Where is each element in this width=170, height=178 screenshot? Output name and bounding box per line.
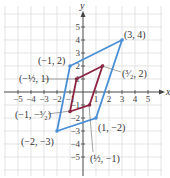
y-axis-label: y — [79, 0, 85, 11]
y-tick-label: −5 — [70, 152, 80, 162]
x-tick-label: −5 — [13, 94, 23, 104]
label-1-neg2: (1, −2) — [98, 122, 125, 134]
vertex-dot — [55, 129, 59, 133]
vertex-dot — [68, 64, 72, 68]
y-tick-label: 3 — [76, 48, 81, 58]
label-neg1-2: (−1, 2) — [38, 55, 65, 67]
x-tick-label: 1 — [94, 94, 99, 104]
x-tick-label: 4 — [133, 94, 138, 104]
plot-canvas: x y −5−4−3−2−11234554321−1−2−3−4−5 (3, 4… — [0, 0, 170, 178]
x-axis-label: x — [165, 86, 170, 97]
y-tick-label: −3 — [70, 126, 80, 136]
outer-parallelogram — [57, 40, 122, 131]
label-3half-2: (³⁄₂, 2) — [122, 68, 147, 80]
x-tick-label: 5 — [146, 94, 151, 104]
label-neg1-neg3half: (−1, −³⁄₂) — [15, 109, 51, 121]
label-3-4: (3, 4) — [124, 29, 146, 41]
label-neg2-neg3: (−2, −3) — [21, 136, 54, 148]
y-tick-label: −2 — [70, 113, 80, 123]
vertex-dot — [88, 103, 92, 107]
vertex-dot — [94, 116, 98, 120]
axes: x y — [4, 0, 170, 176]
y-tick-label: −4 — [70, 139, 80, 149]
coordinate-diagram: x y −5−4−3−2−11234554321−1−2−3−4−5 (3, 4… — [0, 0, 170, 178]
x-tick-label: 3 — [120, 94, 125, 104]
x-tick-label: −4 — [26, 94, 36, 104]
label-half-neg1: (½, −1) — [90, 153, 120, 165]
x-tick-label: −2 — [52, 94, 62, 104]
y-tick-label: 5 — [76, 22, 81, 32]
x-tick-label: −3 — [39, 94, 49, 104]
y-tick-label: 4 — [76, 35, 81, 45]
vertex-dot — [68, 110, 72, 114]
x-axis-arrow-icon — [159, 90, 165, 95]
x-tick-label: 2 — [107, 94, 112, 104]
label-neghalf-1: (−½, 1) — [19, 73, 49, 85]
